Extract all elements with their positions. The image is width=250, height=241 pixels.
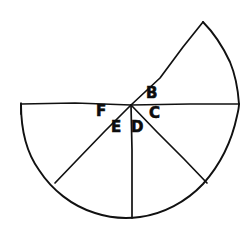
figure-canvas (0, 0, 250, 241)
segment-radius-lower-right (131, 105, 207, 183)
angle-label-e: E (111, 120, 121, 135)
angle-label-b: B (146, 86, 157, 101)
segment-radius-lower-left (55, 105, 131, 183)
arc-top-right (203, 22, 239, 104)
angle-label-c: C (149, 106, 160, 121)
segment-radius-top-apex (131, 22, 203, 105)
geometry-figure: B C D E F (0, 0, 250, 241)
arc-lower (21, 104, 239, 218)
angle-label-f: F (96, 104, 106, 119)
angle-label-d: D (131, 120, 143, 135)
segment-diameter (21, 103, 239, 105)
